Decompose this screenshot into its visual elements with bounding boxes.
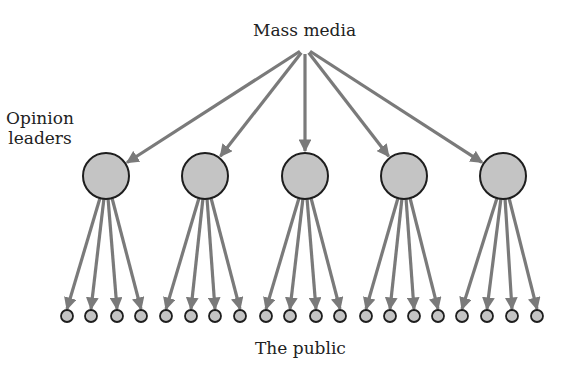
public-arrow — [509, 198, 537, 309]
public-node — [360, 310, 372, 322]
public-nodes — [61, 310, 543, 322]
public-node — [334, 310, 346, 322]
public-node — [111, 310, 123, 322]
public-node — [481, 310, 493, 322]
public-node — [85, 310, 97, 322]
media-to-leader-arrows — [127, 51, 482, 162]
opinion-leader-node — [182, 153, 228, 199]
public-node — [260, 310, 272, 322]
media-arrow — [127, 51, 300, 162]
opinion-leader-nodes — [83, 153, 526, 199]
media-arrow — [309, 53, 389, 156]
public-node — [531, 310, 543, 322]
public-node — [185, 310, 197, 322]
media-arrow — [220, 53, 301, 157]
public-node — [135, 310, 147, 322]
public-arrow — [487, 198, 501, 309]
opinion-leaders-label-line1: Opinion — [5, 108, 75, 128]
public-arrow — [290, 198, 303, 309]
the-public-label: The public — [255, 338, 346, 358]
public-node — [456, 310, 468, 322]
public-node — [384, 310, 396, 322]
public-arrow — [505, 198, 512, 309]
public-node — [506, 310, 518, 322]
public-node — [209, 310, 221, 322]
opinion-leader-node — [83, 153, 129, 199]
public-node — [234, 310, 246, 322]
two-step-flow-diagram — [0, 0, 569, 376]
public-arrow — [266, 198, 299, 309]
public-node — [310, 310, 322, 322]
mass-media-label: Mass media — [253, 20, 356, 40]
public-arrow — [67, 198, 100, 309]
public-node — [284, 310, 296, 322]
public-node — [408, 310, 420, 322]
public-node — [160, 310, 172, 322]
media-arrow — [310, 51, 482, 162]
opinion-leader-node — [282, 153, 328, 199]
leader-to-public-arrows — [67, 198, 537, 309]
opinion-leader-node — [480, 153, 526, 199]
public-node — [432, 310, 444, 322]
public-node — [61, 310, 73, 322]
public-arrow — [462, 198, 497, 309]
public-arrow — [91, 198, 104, 309]
opinion-leaders-label-line2: leaders — [5, 128, 75, 148]
opinion-leaders-label: Opinion leaders — [5, 108, 75, 148]
opinion-leader-node — [381, 153, 427, 199]
